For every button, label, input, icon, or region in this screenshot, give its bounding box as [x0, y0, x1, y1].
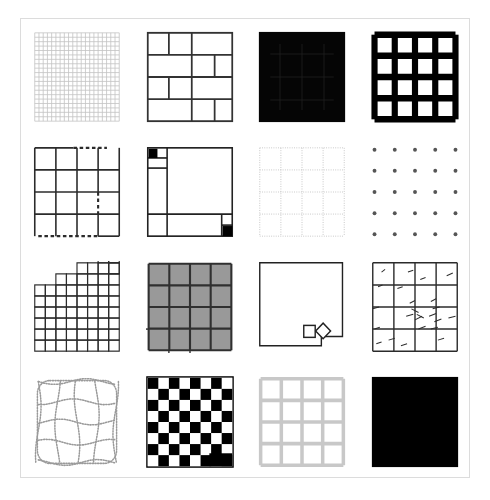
tile-16-canvas	[371, 376, 459, 468]
tile-fine-mesh-grid[interactable]	[21, 19, 134, 134]
checkerboard-black-block	[209, 453, 232, 466]
staircase-grid-art	[33, 261, 121, 353]
faint-dotted-grid-art	[258, 146, 346, 238]
warped-dotted-grid-art	[33, 376, 121, 468]
tile-empty-square-with-markers[interactable]	[246, 249, 359, 364]
tile-1-canvas	[33, 31, 121, 123]
accent-square-bottom-right	[222, 226, 232, 236]
sketchy-noisy-grid-art	[371, 261, 459, 353]
pattern-sheet-frame	[20, 18, 470, 478]
tile-brick-offset-grid[interactable]	[134, 19, 247, 134]
tile-8-canvas	[371, 146, 459, 238]
bold-black-grid-art	[371, 31, 459, 123]
solid-black-square-art	[371, 376, 459, 468]
tile-5-canvas	[33, 146, 121, 238]
tile-grid	[21, 19, 471, 479]
brick-offset-grid-art	[146, 31, 234, 123]
tile-solid-black-square[interactable]	[359, 364, 472, 479]
inverted-black-grid-art	[258, 31, 346, 123]
tile-bold-black-grid[interactable]	[359, 19, 472, 134]
light-gray-grid-art	[258, 376, 346, 468]
tile-13-canvas	[33, 376, 121, 468]
tile-dashed-segment-grid[interactable]	[21, 134, 134, 249]
tile-dot-lattice[interactable]	[359, 134, 472, 249]
tile-15-canvas	[258, 376, 346, 468]
fine-mesh-grid-art	[33, 31, 121, 123]
tile-3-canvas	[258, 31, 346, 123]
checkerboard-art	[146, 376, 234, 468]
tile-checkerboard[interactable]	[134, 364, 247, 479]
empty-square-with-markers-art	[258, 261, 346, 353]
dot-lattice-art	[371, 146, 459, 238]
asymmetric-partition-art	[146, 146, 234, 238]
square-marker	[304, 325, 315, 337]
tile-asymmetric-partition[interactable]	[134, 134, 247, 249]
tile-10-canvas	[146, 261, 234, 353]
dashed-segment-grid-art	[33, 146, 121, 238]
tile-warped-dotted-grid[interactable]	[21, 364, 134, 479]
tile-14-canvas	[146, 376, 234, 468]
tile-6-canvas	[146, 146, 234, 238]
tile-7-canvas	[258, 146, 346, 238]
tile-2-canvas	[146, 31, 234, 123]
tile-gray-filled-grid[interactable]	[134, 249, 247, 364]
gray-filled-grid-art	[146, 261, 234, 353]
tile-faint-dotted-grid[interactable]	[246, 134, 359, 249]
accent-square-top-left	[148, 148, 157, 157]
tile-12-canvas	[371, 261, 459, 353]
tile-9-canvas	[33, 261, 121, 353]
tile-inverted-black-grid[interactable]	[246, 19, 359, 134]
tile-light-gray-grid[interactable]	[246, 364, 359, 479]
tile-4-canvas	[371, 31, 459, 123]
tile-11-canvas	[258, 261, 346, 353]
tile-staircase-grid[interactable]	[21, 249, 134, 364]
tile-sketchy-noisy-grid[interactable]	[359, 249, 472, 364]
